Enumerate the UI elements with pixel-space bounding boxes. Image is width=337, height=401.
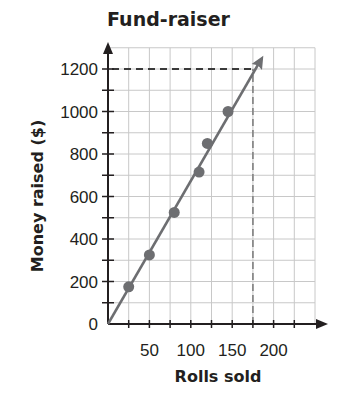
data-point [223,106,234,117]
data-point [202,138,213,149]
data-point [144,249,155,260]
plot-area: 02004006008001000120050100150200 [0,0,337,401]
grid [108,48,315,324]
y-tick-label: 200 [70,273,98,292]
x-tick-label: 150 [218,341,246,360]
x-axis-arrow-icon [316,319,328,329]
x-tick-label: 200 [259,341,287,360]
y-tick-label: 1000 [60,103,98,122]
data-point [123,281,134,292]
x-tick-label: 50 [140,341,159,360]
y-tick-label: 800 [70,145,98,164]
data-point [169,207,180,218]
y-tick-label: 0 [89,315,98,334]
data-point [194,167,205,178]
y-tick-label: 600 [70,188,98,207]
y-tick-label: 1200 [60,60,98,79]
y-tick-label: 400 [70,230,98,249]
x-tick-label: 100 [177,341,205,360]
